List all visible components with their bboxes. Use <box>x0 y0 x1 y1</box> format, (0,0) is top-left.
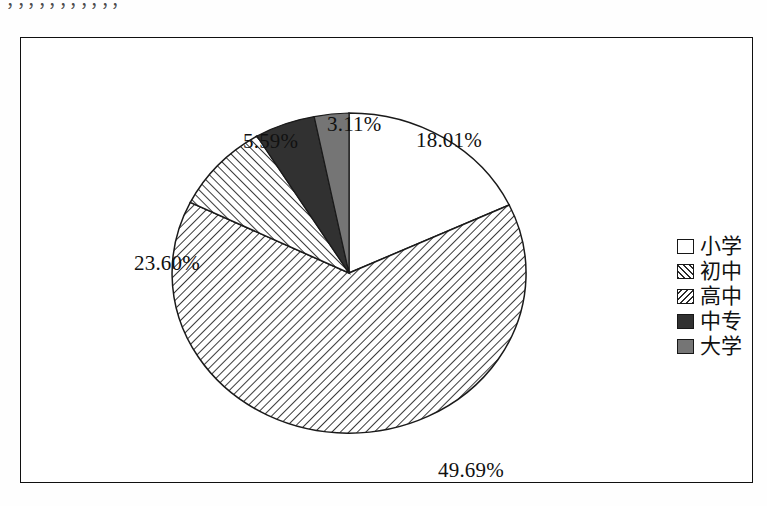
slice-label-daxue: 3.11% <box>327 112 381 137</box>
slice-label-zhongzhuan: 5.59% <box>243 129 298 154</box>
pie-chart-plot-area: 18.01% 3.11% 5.59% 23.60% 49.69% 小学 初中 高… <box>21 38 752 482</box>
legend-item-gaozhong: 高中 <box>677 284 767 309</box>
pie-chart-svg <box>21 38 754 484</box>
legend-item-chuzhong: 初中 <box>677 259 767 284</box>
legend-label-xiaoxue: 小学 <box>700 236 742 257</box>
scan-text-fragment: ，，，，，，，，，，， <box>6 0 336 9</box>
legend-swatch-solid-dark-icon <box>677 314 694 329</box>
chart-frame: 18.01% 3.11% 5.59% 23.60% 49.69% 小学 初中 高… <box>20 37 753 483</box>
legend-item-xiaoxue: 小学 <box>677 234 767 259</box>
legend-item-daxue: 大学 <box>677 334 767 359</box>
legend-swatch-blank-icon <box>677 239 694 254</box>
legend-label-gaozhong: 高中 <box>700 286 742 307</box>
legend-label-zhongzhuan: 中专 <box>700 311 742 332</box>
legend-label-daxue: 大学 <box>700 336 742 357</box>
legend-item-zhongzhuan: 中专 <box>677 309 767 334</box>
legend-swatch-backward-hatch-icon <box>677 289 694 304</box>
slice-label-xiaoxue: 18.01% <box>416 128 482 153</box>
legend-swatch-forward-hatch-icon <box>677 264 694 279</box>
slice-label-gaozhong: 23.60% <box>134 251 200 276</box>
chart-legend: 小学 初中 高中 中专 大学 <box>677 234 767 359</box>
slice-label-chuzhong: 49.69% <box>438 458 504 483</box>
legend-label-chuzhong: 初中 <box>700 261 742 282</box>
legend-swatch-solid-gray-icon <box>677 339 694 354</box>
